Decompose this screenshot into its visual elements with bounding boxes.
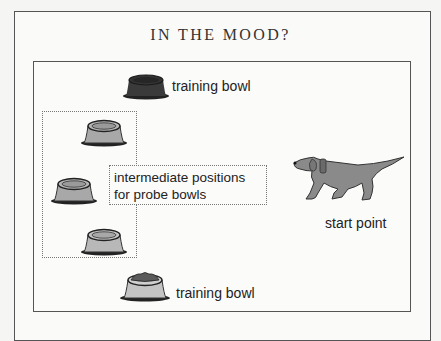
probe-bowl-1-icon xyxy=(80,117,128,147)
training-bowl-bottom-icon xyxy=(119,268,171,302)
note-line-2: for probe bowls xyxy=(114,186,266,203)
probe-positions-note: intermediate positions for probe bowls xyxy=(109,165,267,205)
probe-bowl-3-icon xyxy=(78,226,130,256)
dog-icon xyxy=(292,153,406,205)
figure-title: IN THE MOOD? xyxy=(0,26,441,44)
training-bowl-top-icon xyxy=(122,72,170,100)
training-bowl-bottom-label: training bowl xyxy=(176,285,255,301)
training-bowl-top-label: training bowl xyxy=(172,78,251,94)
note-line-1: intermediate positions xyxy=(114,169,266,186)
dog-start-label: start point xyxy=(325,215,386,231)
probe-bowl-2-icon xyxy=(48,175,100,205)
